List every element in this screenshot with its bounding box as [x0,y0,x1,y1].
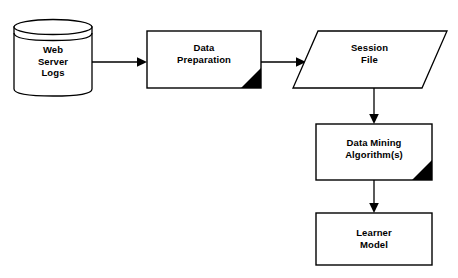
edge-mining-to-learner [369,180,379,213]
arrowhead-icon [369,114,379,124]
parallelogram-body [293,31,447,88]
cylinder-body [14,27,92,96]
node-web-server-logs[interactable] [14,20,92,97]
node-data-mining-algorithms[interactable] [316,124,432,180]
rect-body [147,31,261,88]
arrowhead-icon [369,203,379,213]
node-data-preparation[interactable] [147,31,261,88]
edge-logs-to-preparation [92,57,147,67]
edge-session-to-mining [369,88,379,124]
rect-body [316,124,432,180]
cylinder-top-ellipse [14,20,92,35]
node-learner-model[interactable] [316,213,432,265]
edge-preparation-to-session [261,57,306,67]
node-session-file[interactable] [293,31,447,88]
arrowhead-icon [137,57,147,67]
rect-body [316,213,432,265]
diagram-vector-layer [0,0,458,278]
diagram-canvas: Web Server Logs Data Preparation Session… [0,0,458,278]
